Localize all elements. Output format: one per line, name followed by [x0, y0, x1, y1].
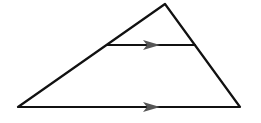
triangle-diagram	[0, 0, 261, 123]
triangle	[18, 4, 240, 107]
